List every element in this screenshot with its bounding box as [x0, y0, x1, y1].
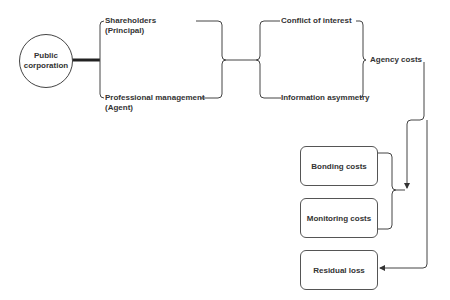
residual-loss-label: Residual loss: [313, 266, 365, 275]
professional-management-line2: (Agent): [105, 103, 133, 112]
residual-loss-box[interactable]: Residual loss: [300, 250, 378, 290]
monitoring-costs-label: Monitoring costs: [307, 214, 371, 223]
information-asymmetry-label[interactable]: Information asymmetry: [281, 93, 369, 103]
shareholders-line2: (Principal): [105, 26, 144, 35]
public-corporation-line2: corporation: [24, 61, 68, 70]
shareholders-label[interactable]: Shareholders (Principal): [105, 16, 156, 36]
monitoring-costs-box[interactable]: Monitoring costs: [300, 198, 378, 238]
bonding-costs-box[interactable]: Bonding costs: [300, 146, 378, 186]
public-corporation-line1: Public: [34, 51, 58, 60]
professional-management-line1: Professional management: [105, 93, 205, 102]
shareholders-line1: Shareholders: [105, 16, 156, 25]
bonding-costs-label: Bonding costs: [311, 162, 367, 171]
agency-costs-label[interactable]: Agency costs: [370, 55, 422, 65]
public-corporation-node[interactable]: Public corporation: [19, 34, 73, 88]
professional-management-label[interactable]: Professional management (Agent): [105, 93, 205, 113]
conflict-of-interest-label[interactable]: Conflict of interest: [281, 16, 352, 26]
